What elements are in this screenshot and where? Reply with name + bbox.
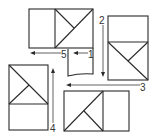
step-label-3: 3	[140, 82, 146, 93]
step-label-2: 2	[99, 15, 105, 26]
bottom-panel	[64, 91, 129, 131]
step-label-1: 1	[88, 49, 94, 60]
top-panel-fold-line	[55, 9, 74, 28]
right-panel-fold-line	[128, 42, 148, 61]
left-panel	[9, 65, 48, 130]
arrow-down-icon	[101, 72, 105, 77]
arrow-left-icon	[73, 51, 78, 55]
bottom-panel-fold-line	[84, 111, 103, 131]
right-panel	[108, 16, 148, 80]
step-label-4: 4	[50, 123, 56, 134]
arrow-left-icon	[66, 83, 71, 87]
arrow-left-icon	[30, 51, 35, 55]
arrow-step-1: 1	[73, 49, 94, 60]
folding-diagram: 5 1 2 3 4	[0, 0, 162, 138]
top-panel	[29, 9, 93, 48]
step-label-5: 5	[61, 49, 67, 60]
arrow-step-2: 2	[99, 15, 105, 77]
left-panel-fold-line	[9, 85, 29, 104]
arrow-step-4: 4	[50, 68, 56, 134]
arrow-step-5: 5	[30, 49, 67, 60]
arrow-up-icon	[51, 68, 55, 73]
